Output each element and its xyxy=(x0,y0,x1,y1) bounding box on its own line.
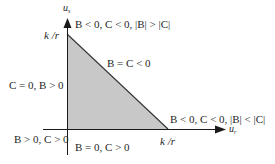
y-axis-label: us xyxy=(63,3,70,16)
x-axis-label-sub: r xyxy=(234,129,236,135)
annotation-top-vertex: B < 0, C < 0, |B| > |C| xyxy=(75,18,170,30)
annotation-left-edge: C = 0, B > 0 xyxy=(9,79,64,91)
y-tick-label: k /r xyxy=(44,29,59,41)
phase-diagram: us ur k /r k /r B < 0, C < 0, |B| > |C| … xyxy=(0,0,275,164)
y-axis-label-sub: s xyxy=(68,8,70,14)
annotation-bottom-edge: B = 0, C > 0 xyxy=(75,141,130,153)
y-axis-arrow-icon xyxy=(64,18,72,28)
x-axis-arrow-icon xyxy=(215,126,226,134)
annotation-right-vertex: B < 0, C < 0, |B| < |C| xyxy=(170,113,265,125)
x-tick-label: k /r xyxy=(160,135,175,147)
x-axis-label: ur xyxy=(229,124,236,137)
annotation-hypotenuse: B = C < 0 xyxy=(107,57,151,69)
annotation-origin: B > 0, C > 0 xyxy=(14,133,69,145)
